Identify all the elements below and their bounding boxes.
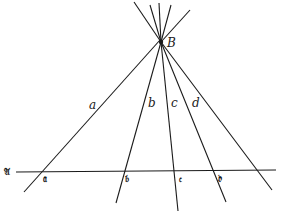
point-b-label: B	[166, 36, 176, 50]
point-b-dot	[159, 40, 163, 44]
line-a	[24, 40, 160, 192]
intersection-b-label: 𝔟	[124, 174, 129, 184]
line-d	[161, 42, 226, 202]
line-a-label: a	[89, 98, 96, 112]
transversal-label: 𝔄	[3, 167, 11, 177]
line-d-label: d	[192, 96, 200, 110]
line-c-label: c	[171, 96, 178, 110]
line-e-ext	[134, 2, 161, 42]
transversal-line	[16, 170, 276, 172]
line-c	[161, 42, 178, 211]
intersection-a-label: 𝔞	[43, 174, 48, 184]
diagram-svg: B a b c d 𝔄 𝔞 𝔟 𝔠 𝔡	[0, 0, 288, 217]
intersection-c-label: 𝔠	[179, 174, 182, 184]
line-b	[116, 42, 161, 203]
line-b-label: b	[148, 96, 156, 110]
intersection-d-label: 𝔡	[218, 174, 222, 184]
line-e	[161, 42, 272, 190]
diagram-canvas: B a b c d 𝔄 𝔞 𝔟 𝔠 𝔡	[0, 0, 288, 217]
